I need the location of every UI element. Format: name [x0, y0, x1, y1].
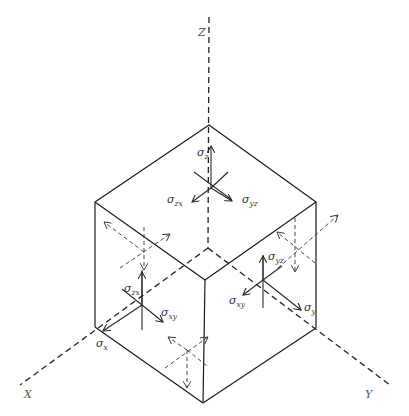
edge-front-vertical: [203, 280, 205, 403]
axes: [20, 17, 390, 385]
sigma-y-arrow: [263, 280, 301, 310]
hidden-left-diag-right: [120, 234, 170, 268]
sigma-x-arrow: [103, 305, 142, 331]
label-sigma-y: σy: [304, 301, 317, 316]
label-sigma-yz-right: σyz: [268, 250, 284, 265]
sigma-xy-left-arrow: [142, 305, 163, 322]
axis-label-z: Z: [197, 26, 206, 39]
label-sigma-x: σx: [96, 337, 109, 352]
right-face-diag-guide: [263, 266, 282, 280]
edge-bottom-right: [203, 328, 316, 403]
label-sigma-zx-left: σzx: [124, 282, 140, 297]
label-sigma-z: σz: [197, 146, 209, 161]
left-face-stresses: σzx σxy σx: [96, 270, 178, 352]
right-face-stresses: σyz σxy σy: [229, 250, 317, 316]
label-sigma-zx-top: σzx: [167, 193, 183, 208]
z-axis: [208, 17, 209, 248]
hidden-bottom-diag-up: [168, 337, 187, 350]
axis-label-y: Y: [365, 388, 374, 401]
x-axis: [20, 248, 208, 385]
axis-label-x: X: [23, 388, 33, 401]
y-axis: [208, 248, 390, 385]
hidden-bottom-diag-right: [165, 337, 208, 368]
top-face-guide-2: [211, 172, 228, 188]
label-sigma-xy-left: σxy: [161, 306, 178, 321]
sigma-yz-top-arrow: [211, 188, 232, 201]
label-sigma-xy-right: σxy: [229, 294, 246, 309]
label-sigma-yz-top: σyz: [242, 193, 258, 208]
top-face-stresses: σz σzx σyz: [167, 146, 258, 208]
left-face-hidden-stresses: [104, 222, 170, 270]
stress-cube-diagram: σz σzx σyz σzx σxy σx σyz σxy σy: [0, 0, 409, 416]
hidden-left-diag-up: [104, 222, 144, 252]
